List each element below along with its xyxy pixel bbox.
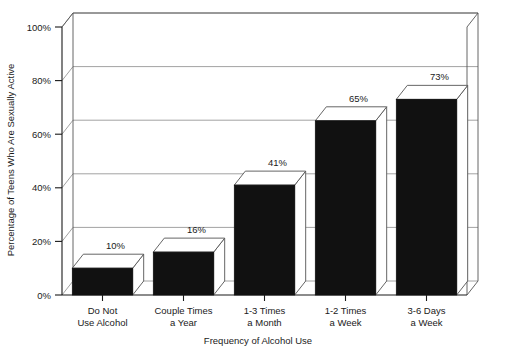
- x-axis: Do NotUse AlcoholCouple Timesa Year1-3 T…: [77, 295, 445, 328]
- x-category-label: a Week: [329, 317, 361, 328]
- y-tick-label: 20%: [32, 236, 52, 247]
- y-tick-label: 0%: [37, 290, 51, 301]
- right-wall-bottom-edge: [467, 281, 478, 295]
- bar-side-face: [457, 85, 468, 295]
- top-left-depth-edge: [62, 13, 73, 27]
- bar-top-face: [396, 85, 467, 99]
- bar-value-label: 41%: [268, 157, 288, 168]
- x-category-label: 1-3 Times: [244, 305, 286, 316]
- y-tick-label: 40%: [32, 182, 52, 193]
- bar-front-face: [72, 268, 132, 295]
- bar-column: [396, 85, 467, 295]
- x-category-label: 3-6 Days: [407, 305, 445, 316]
- bar-chart-3d: 0%20%40%60%80%100% 10%16%41%65%73% Do No…: [0, 0, 516, 357]
- bar-column: [234, 171, 305, 295]
- bar-top-face: [153, 238, 224, 252]
- grid-depth-connector: [62, 174, 73, 188]
- y-tick-label: 100%: [27, 22, 52, 33]
- bar-value-label: 65%: [349, 93, 369, 104]
- x-category-label: a Week: [410, 317, 442, 328]
- bar-front-face: [234, 185, 294, 295]
- bar-front-face: [315, 121, 375, 295]
- bars-group: [72, 85, 467, 295]
- x-category-label: a Year: [170, 317, 197, 328]
- x-category-label: Use Alcohol: [77, 317, 127, 328]
- bar-side-face: [376, 107, 387, 295]
- y-tick-label: 80%: [32, 75, 52, 86]
- y-tick-label: 60%: [32, 129, 52, 140]
- bar-top-face: [72, 254, 143, 268]
- bar-value-label: 73%: [430, 71, 450, 82]
- x-category-label: Couple Times: [154, 305, 212, 316]
- bar-front-face: [153, 252, 213, 295]
- bar-column: [315, 107, 386, 295]
- bar-top-face: [315, 107, 386, 121]
- y-axis-title: Percentage of Teens Who Are Sexually Act…: [5, 64, 16, 257]
- grid-depth-connector: [62, 120, 73, 134]
- bar-column: [72, 254, 143, 295]
- bar-side-face: [295, 171, 306, 295]
- bar-value-label: 16%: [187, 224, 207, 235]
- chart-container: 0%20%40%60%80%100% 10%16%41%65%73% Do No…: [0, 0, 516, 357]
- bar-front-face: [396, 99, 456, 295]
- grid-depth-connector: [62, 227, 73, 241]
- grid-depth-connector: [62, 281, 73, 295]
- grid-depth-connector: [62, 67, 73, 81]
- x-category-label: a Month: [247, 317, 281, 328]
- bar-column: [153, 238, 224, 295]
- x-category-label: 1-2 Times: [325, 305, 367, 316]
- x-axis-title: Frequency of Alcohol Use: [204, 335, 312, 346]
- y-axis: 0%20%40%60%80%100%: [27, 22, 62, 301]
- right-wall-top-edge: [467, 13, 478, 27]
- bar-top-face: [234, 171, 305, 185]
- x-category-label: Do Not: [88, 305, 118, 316]
- bar-value-label: 10%: [106, 240, 126, 251]
